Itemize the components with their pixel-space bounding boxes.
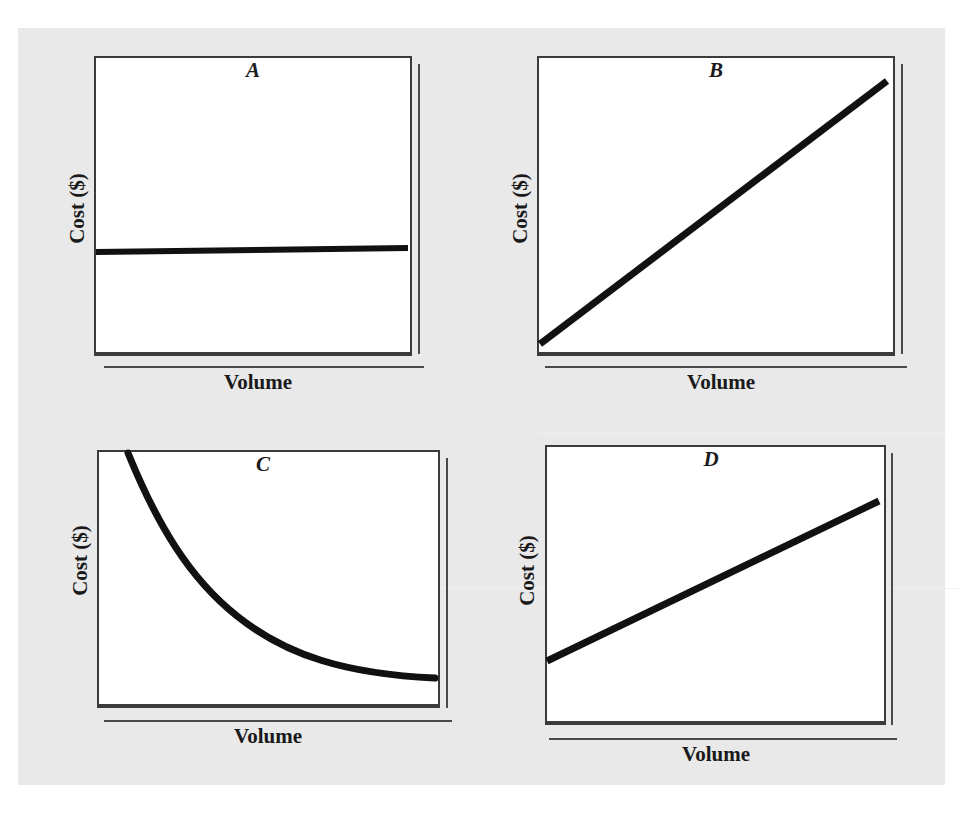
page-bleed-text [120,0,380,14]
plotbox-shadow-right [418,64,420,354]
x-axis-label-d: Volume [626,742,806,767]
graph-panel-d[interactable]: D Cost ($) Volume [501,428,941,758]
cost-curve-b [537,56,895,356]
y-axis-label-d: Cost ($) [515,511,540,631]
cost-curve-d [545,445,886,725]
x-axis-label-b: Volume [631,370,811,395]
cost-curve-c [97,450,440,708]
cost-curve-a [94,56,412,356]
plotbox-shadow-bottom [104,366,424,368]
x-axis-label-c: Volume [178,724,358,749]
plotbox-shadow-bottom [549,738,897,740]
plotbox-shadow-right [446,458,448,708]
plotbox-shadow-right [891,453,893,725]
graph-panel-b[interactable]: B Cost ($) Volume [501,48,921,388]
figure-page: A Cost ($) Volume B Cost ($) Volume [0,0,979,813]
figure-plate: A Cost ($) Volume B Cost ($) Volume [18,28,945,785]
graph-panel-a[interactable]: A Cost ($) Volume [58,48,478,388]
y-axis-label-c: Cost ($) [68,501,93,621]
y-axis-label-b: Cost ($) [508,149,533,269]
plotbox-shadow-bottom [545,366,907,368]
y-axis-label-a: Cost ($) [65,149,90,269]
plotbox-shadow-right [901,64,903,354]
plotbox-shadow-bottom [104,720,452,722]
x-axis-label-a: Volume [168,370,348,395]
graph-panel-c[interactable]: C Cost ($) Volume [58,428,498,758]
